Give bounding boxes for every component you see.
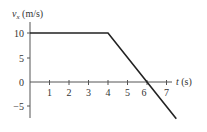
x-tick-label: 4 <box>106 87 111 98</box>
velocity-time-chart: 10 5 0 −5 1 2 3 4 5 6 7 vx (m/s) t (s) <box>0 0 207 132</box>
x-tick-label: 7 <box>164 87 169 98</box>
x-tick-label: 1 <box>47 87 52 98</box>
x-tick-label: 5 <box>125 87 130 98</box>
y-tick-label: −5 <box>13 101 24 112</box>
x-tick-label: 2 <box>67 87 72 98</box>
x-axis-label: t (s) <box>176 76 192 88</box>
y-axis-label-units: (m/s) <box>20 8 44 20</box>
x-axis-label-units: (s) <box>179 76 192 88</box>
y-axis-label: vx (m/s) <box>12 8 43 21</box>
y-tick-label: 5 <box>19 53 24 64</box>
velocity-series-line <box>30 33 176 119</box>
y-tick-label: 0 <box>19 77 24 88</box>
x-tick-label: 3 <box>86 87 91 98</box>
x-tick-label: 6 <box>142 87 147 98</box>
y-tick-label: 10 <box>14 28 24 39</box>
